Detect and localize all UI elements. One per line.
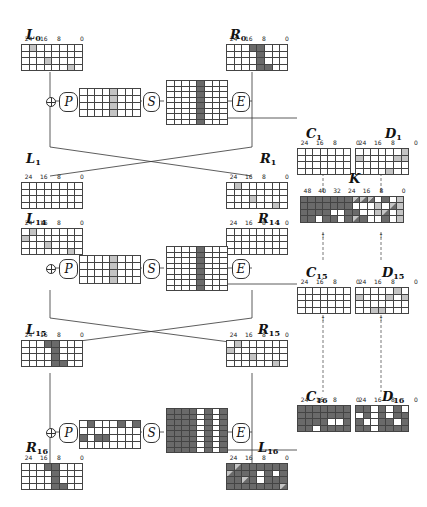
grid-s-round15	[166, 246, 228, 291]
grid-r0	[226, 44, 288, 71]
grid-d1	[355, 148, 409, 175]
grid-c1	[297, 148, 351, 175]
label-r16: R16	[26, 441, 48, 455]
label-l14: L14	[26, 212, 46, 226]
label-l0: L0	[26, 28, 41, 42]
label-r1: R1	[260, 152, 276, 166]
label-c15: C15	[306, 266, 328, 280]
grid-k	[300, 196, 404, 223]
grid-l1	[21, 182, 83, 209]
grid-c16	[297, 405, 351, 432]
svg-text:↑: ↑	[378, 315, 383, 322]
svg-text:↑: ↑	[378, 232, 383, 239]
xor-round16	[46, 428, 56, 438]
grid-p-round15	[79, 255, 141, 284]
grid-p-round1	[79, 88, 141, 117]
grid-l15	[21, 340, 83, 367]
grid-d15	[355, 287, 409, 314]
substitution-round16: S	[143, 423, 160, 443]
expansion-round15: E	[232, 259, 250, 279]
substitution-round15: S	[143, 259, 160, 279]
grid-l16	[226, 463, 288, 490]
permutation-round1: P	[59, 92, 78, 112]
label-c16: C16	[306, 390, 328, 404]
expansion-round1: E	[232, 92, 250, 112]
label-r0: R0	[230, 28, 246, 42]
label-d1: D1	[385, 127, 402, 141]
svg-text:↑: ↑	[320, 315, 325, 322]
label-r15: R15	[258, 323, 280, 337]
label-k: K	[349, 172, 360, 185]
grid-s-round16	[166, 408, 228, 453]
xor-round15	[46, 264, 56, 274]
label-l16: L16	[258, 441, 278, 455]
label-d15: D15	[382, 266, 404, 280]
label-r14: R14	[258, 212, 280, 226]
grid-r14	[226, 228, 288, 255]
grid-r15	[226, 340, 288, 367]
label-d16: D16	[382, 390, 404, 404]
grid-d16	[355, 405, 409, 432]
grid-c15	[297, 287, 351, 314]
label-l15: L15	[26, 323, 46, 337]
permutation-round15: P	[59, 259, 78, 279]
xor-round1	[46, 97, 56, 107]
grid-p-round16	[79, 420, 141, 449]
grid-r1	[226, 182, 288, 209]
grid-l0	[21, 44, 83, 71]
permutation-round16: P	[59, 423, 78, 443]
grid-r16	[21, 463, 83, 490]
label-c1: C1	[306, 127, 322, 141]
expansion-round16: E	[232, 423, 250, 443]
grid-l14	[21, 228, 83, 255]
svg-text:↑: ↑	[320, 232, 325, 239]
substitution-round1: S	[143, 92, 160, 112]
grid-s-round1	[166, 80, 228, 125]
label-l1: L1	[26, 152, 41, 166]
